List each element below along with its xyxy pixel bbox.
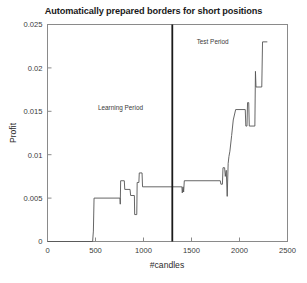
y-tick-label: 0 [38, 237, 42, 246]
chart-figure: Automatically prepared borders for short… [0, 0, 307, 283]
x-axis-title: #candles [150, 260, 184, 270]
x-tick-label: 0 [45, 246, 49, 255]
y-tick-label: 0.015 [23, 107, 42, 116]
x-tick-label: 500 [89, 246, 102, 255]
y-tick-label: 0.01 [28, 151, 43, 160]
plot-annotation-test-period: Test Period [197, 38, 229, 45]
x-tick-label: 2000 [231, 246, 248, 255]
x-tick-label: 2500 [279, 246, 296, 255]
plot-area-border [48, 25, 288, 242]
y-tick-label: 0.02 [28, 64, 43, 73]
y-axis-title: Profit [8, 122, 18, 143]
line-chart-plot: 00.0050.010.0150.020.025 050010001500200… [0, 0, 307, 283]
plot-annotation-learning-period: Learning Period [98, 104, 144, 112]
axes-frame [48, 25, 288, 242]
y-tick-label: 0.005 [23, 194, 42, 203]
x-tick-label: 1500 [183, 246, 200, 255]
y-tick-label: 0.025 [23, 20, 42, 29]
x-tick-label: 1000 [135, 246, 152, 255]
